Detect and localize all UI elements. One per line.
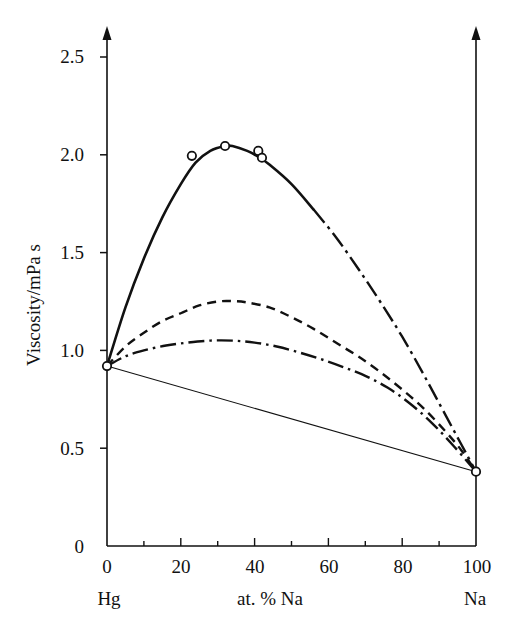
x-axis-end-label-hg: Hg — [86, 588, 132, 610]
curves-group — [107, 145, 476, 471]
x-tick-label-80: 80 — [380, 556, 426, 578]
x-axis-title: at. % Na — [212, 588, 328, 610]
x-axis-end-label-na: Na — [452, 588, 498, 610]
data-point-markers — [103, 142, 480, 476]
y-tick-label-0.5: 0.5 — [18, 438, 84, 460]
x-tick-label-40: 40 — [232, 556, 278, 578]
x-tick-label-20: 20 — [158, 556, 204, 578]
x-tick-label-0: 0 — [84, 556, 130, 578]
viscosity-chart-figure: Viscosity/mPa s 2.5 2.0 1.5 1.0 0.5 0 0 … — [0, 0, 520, 640]
y-tick-label-2.0: 2.0 — [18, 144, 84, 166]
y-axis-title: Viscosity/mPa s — [23, 185, 45, 425]
y-tick-label-2.5: 2.5 — [18, 46, 84, 68]
y-tick-label-1.5: 1.5 — [18, 242, 84, 264]
axes-group — [100, 26, 481, 546]
x-tick-label-100: 100 — [452, 556, 502, 578]
y-tick-label-1.0: 1.0 — [18, 340, 84, 362]
y-tick-label-0: 0 — [18, 536, 84, 558]
x-tick-label-60: 60 — [306, 556, 352, 578]
